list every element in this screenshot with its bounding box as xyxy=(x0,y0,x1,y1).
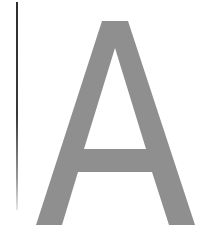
letter-a-glyph xyxy=(0,0,210,241)
letter-a-shape xyxy=(36,21,195,225)
